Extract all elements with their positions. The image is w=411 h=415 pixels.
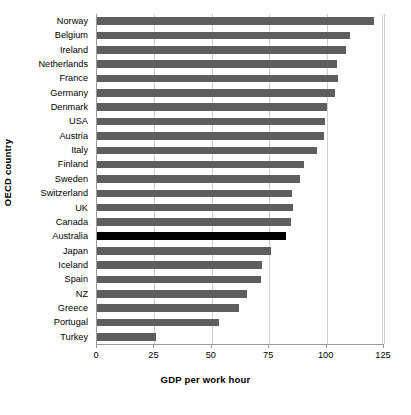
y-tick-label-iceland: Iceland (58, 258, 88, 272)
y-tick-label-ireland: Ireland (60, 43, 88, 57)
bar-denmark (97, 103, 327, 111)
y-tick-label-turkey: Turkey (60, 330, 88, 344)
bar-row (97, 186, 382, 200)
bar-turkey (97, 333, 156, 341)
x-tick-label-0: 0 (76, 350, 116, 360)
bar-row (97, 272, 382, 286)
x-tick-label-50: 50 (191, 350, 231, 360)
y-tick-label-finland: Finland (58, 157, 88, 171)
bar-row (97, 157, 382, 171)
bar-uk (97, 204, 293, 212)
y-axis-tick-labels: NorwayBelgiumIrelandNetherlandsFranceGer… (14, 14, 92, 344)
bar-france (97, 75, 338, 83)
bar-row (97, 43, 382, 57)
bar-spain (97, 276, 261, 284)
x-tick (326, 344, 327, 348)
bar-row (97, 301, 382, 315)
y-tick-label-greece: Greece (58, 301, 88, 315)
bar-norway (97, 17, 374, 25)
y-tick-label-belgium: Belgium (55, 28, 88, 42)
y-tick-label-japan: Japan (63, 244, 88, 258)
x-tick-label-75: 75 (248, 350, 288, 360)
plot-area (96, 14, 383, 344)
y-tick-label-switzerland: Switzerland (41, 186, 89, 200)
bar-row (97, 143, 382, 157)
bar-chart: OECD country NorwayBelgiumIrelandNetherl… (0, 0, 411, 415)
bar-row (97, 229, 382, 243)
bar-row (97, 28, 382, 42)
bar-row (97, 71, 382, 85)
y-tick-label-sweden: Sweden (55, 172, 88, 186)
x-axis-line (96, 344, 383, 345)
gridline (384, 14, 385, 344)
y-tick-label-spain: Spain (65, 272, 89, 286)
x-tick (211, 344, 212, 348)
bar-row (97, 258, 382, 272)
bar-row (97, 201, 382, 215)
bar-nz (97, 290, 247, 298)
bar-belgium (97, 32, 350, 40)
y-axis-title-text: OECD country (3, 139, 14, 206)
x-tick-label-25: 25 (133, 350, 173, 360)
bar-row (97, 57, 382, 71)
x-tick (383, 344, 384, 348)
x-tick-label-125: 125 (363, 350, 403, 360)
y-tick-label-uk: UK (75, 201, 88, 215)
bar-row (97, 129, 382, 143)
bar-sweden (97, 175, 300, 183)
y-tick-label-usa: USA (69, 114, 88, 128)
bar-row (97, 287, 382, 301)
bar-switzerland (97, 190, 292, 198)
y-tick-label-portugal: Portugal (54, 315, 88, 329)
bar-finland (97, 161, 304, 169)
bar-usa (97, 118, 325, 126)
y-tick-label-austria: Austria (59, 129, 88, 143)
y-tick-label-norway: Norway (57, 14, 88, 28)
y-tick-label-nz: NZ (76, 287, 88, 301)
bar-row (97, 330, 382, 344)
x-tick (96, 344, 97, 348)
y-tick-label-italy: Italy (71, 143, 88, 157)
y-tick-label-france: France (59, 71, 88, 85)
bar-japan (97, 247, 271, 255)
bar-rows (97, 14, 382, 344)
x-tick-label-100: 100 (306, 350, 346, 360)
bar-netherlands (97, 60, 337, 68)
bar-row (97, 86, 382, 100)
bar-row (97, 114, 382, 128)
y-tick-label-netherlands: Netherlands (38, 57, 88, 71)
bar-row (97, 215, 382, 229)
bar-row (97, 14, 382, 28)
bar-canada (97, 218, 291, 226)
y-tick-label-canada: Canada (56, 215, 88, 229)
y-tick-label-germany: Germany (50, 86, 88, 100)
bar-ireland (97, 46, 346, 54)
x-axis-title: GDP per work hour (0, 374, 411, 385)
bar-row (97, 100, 382, 114)
bar-italy (97, 147, 317, 155)
x-tick (268, 344, 269, 348)
bar-row (97, 315, 382, 329)
bar-australia (97, 232, 286, 240)
bar-row (97, 244, 382, 258)
bar-row (97, 172, 382, 186)
y-tick-label-australia: Australia (52, 229, 88, 243)
bar-greece (97, 304, 239, 312)
bar-iceland (97, 261, 262, 269)
bar-germany (97, 89, 335, 97)
bar-portugal (97, 319, 219, 327)
x-tick (153, 344, 154, 348)
bar-austria (97, 132, 324, 140)
y-tick-label-denmark: Denmark (51, 100, 88, 114)
